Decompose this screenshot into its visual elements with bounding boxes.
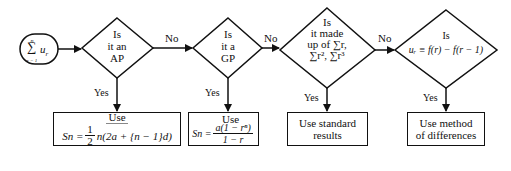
outcome-method-of-differences: Use method of differences (407, 112, 485, 146)
outcome-gp-formula: Use Sn = a(1 − rⁿ) 1 − r (188, 112, 259, 146)
decision-differences-line-1: Is (398, 30, 494, 42)
outcome-ap-formula: Use Sn = 1 2 n(2a + {n − 1}d) (53, 112, 181, 146)
decision-ap-text: Is it an AP (92, 28, 142, 64)
outcome-standard-results: Use standard results (287, 112, 368, 146)
decision-gp-text: Is it a GP (203, 28, 253, 64)
start-expression: n ∑ r = 1 ur (22, 36, 56, 62)
gp-frac-den: 1 − r (223, 134, 244, 145)
label-no-ap: No (165, 32, 178, 44)
decision-gp-line-2: it a (203, 40, 253, 52)
decision-ap-line-3: AP (92, 52, 142, 64)
label-no-standard: No (378, 32, 391, 44)
ap-rhs: n(2a + {n − 1}d) (97, 130, 172, 142)
standard-line-1: Use standard (299, 117, 356, 129)
standard-line-2: results (313, 129, 342, 141)
sum-term: ur (40, 43, 48, 60)
sum-lower-limit: r = 1 (24, 55, 40, 67)
ap-lhs: Sn = (62, 130, 83, 142)
label-yes-standard: Yes (304, 92, 319, 104)
label-yes-gp: Yes (205, 87, 220, 99)
gp-frac-num: a(1 − rⁿ) (213, 122, 252, 134)
outcome-ap-equation: Sn = 1 2 n(2a + {n − 1}d) (62, 124, 172, 147)
decision-differences-text: Is uᵣ ≡ f(r) − f(r − 1) (398, 30, 494, 56)
decision-ap-line-2: it an (92, 40, 142, 52)
outcome-gp-equation: Sn = a(1 − rⁿ) 1 − r (192, 122, 255, 145)
gp-fraction: a(1 − rⁿ) 1 − r (213, 122, 252, 145)
decision-gp-line-3: GP (203, 52, 253, 64)
decision-standard-text: Is it made up of ∑r, ∑r², ∑r³ (292, 17, 362, 61)
decision-standard-line-4: ∑r², ∑r³ (292, 50, 362, 61)
sigma-icon: ∑ (26, 41, 38, 53)
differences-line-2: of differences (416, 129, 477, 141)
sum-term-subscript: r (46, 50, 49, 58)
gp-lhs: Sn = (192, 128, 211, 140)
decision-ap-line-1: Is (92, 28, 142, 40)
label-no-gp: No (264, 32, 277, 44)
label-yes-differences: Yes (423, 92, 438, 104)
decision-differences-line-2: uᵣ ≡ f(r) − f(r − 1) (398, 44, 494, 56)
ap-half-fraction: 1 2 (85, 124, 95, 147)
label-yes-ap: Yes (94, 87, 109, 99)
differences-line-1: Use method (420, 117, 473, 129)
decision-gp-line-1: Is (203, 28, 253, 40)
outcome-ap-heading: Use (106, 111, 127, 124)
ap-frac-den: 2 (87, 136, 93, 147)
